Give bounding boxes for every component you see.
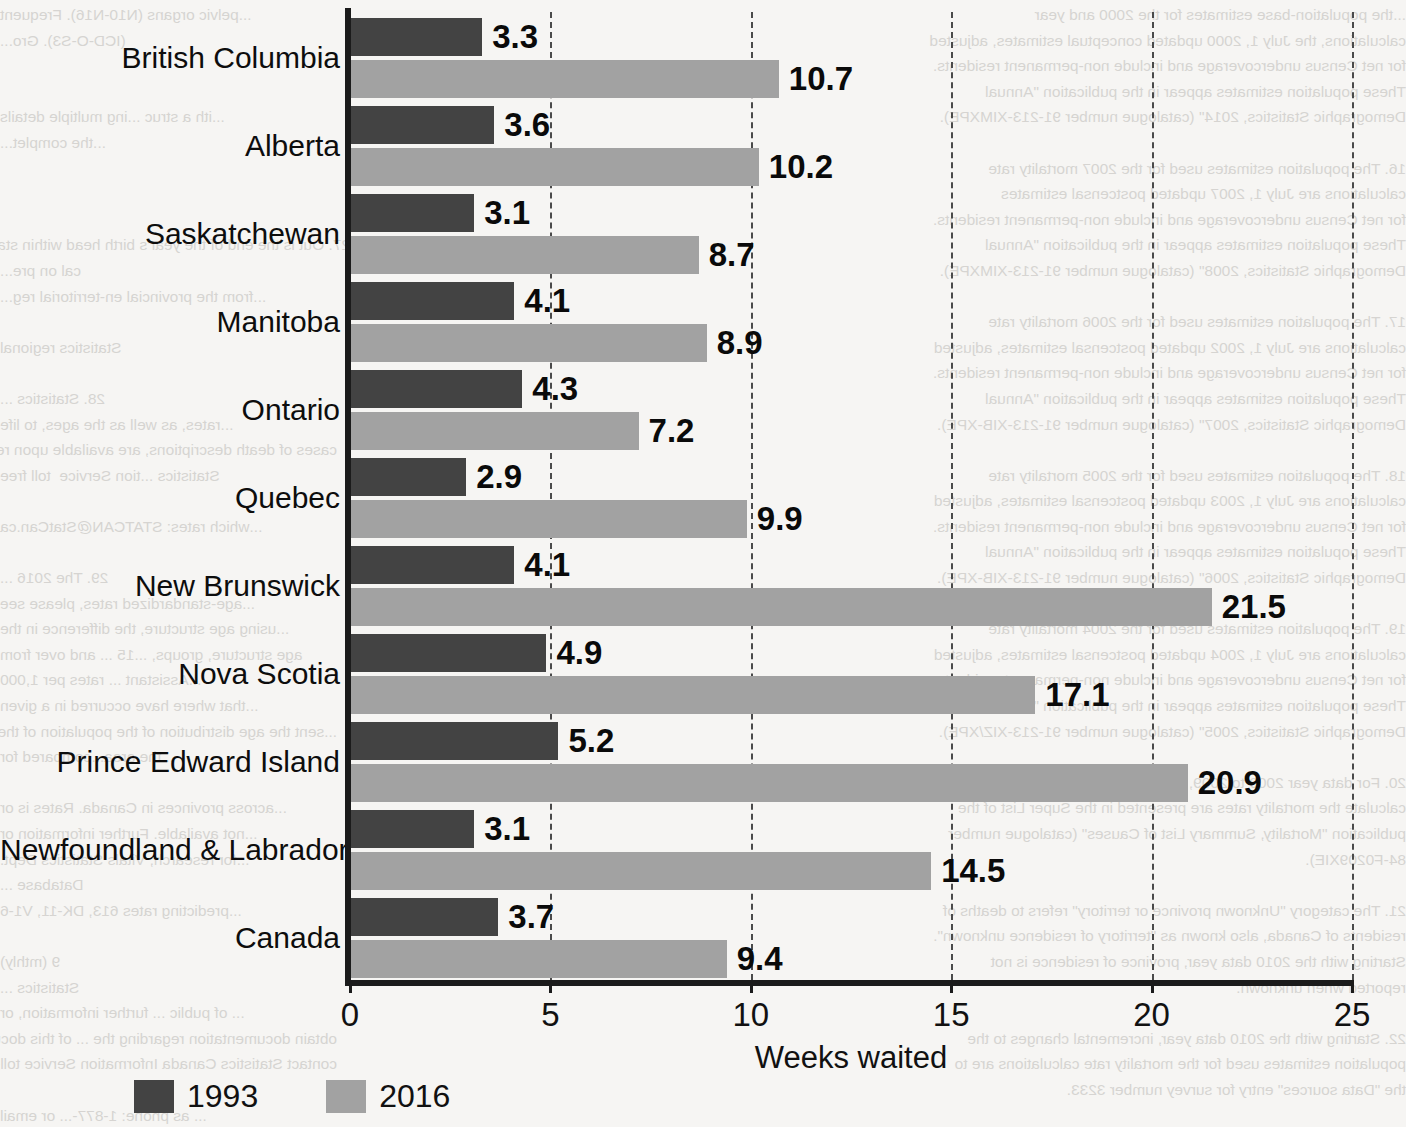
bar-2016 bbox=[350, 500, 747, 538]
bar-group: Canada3.79.4 bbox=[350, 898, 1352, 986]
bar-value-label: 8.7 bbox=[709, 236, 755, 274]
bar-1993 bbox=[350, 458, 466, 496]
bar-value-label: 14.5 bbox=[941, 852, 1005, 890]
bar-1993 bbox=[350, 634, 546, 672]
chart-legend: 1993 2016 bbox=[134, 1078, 450, 1115]
bar-1993 bbox=[350, 722, 558, 760]
bar-group: Quebec2.99.9 bbox=[350, 458, 1352, 546]
bar-1993 bbox=[350, 546, 514, 584]
legend-swatch-2016 bbox=[326, 1080, 366, 1113]
bar-2016 bbox=[350, 676, 1035, 714]
x-axis-line bbox=[345, 980, 1354, 986]
bar-2016 bbox=[350, 60, 779, 98]
x-tick-label-5: 5 bbox=[541, 996, 559, 1034]
bar-2016 bbox=[350, 324, 707, 362]
bar-group: Nova Scotia4.917.1 bbox=[350, 634, 1352, 722]
y-axis-line bbox=[345, 8, 351, 986]
bar-2016 bbox=[350, 764, 1188, 802]
bar-value-label: 3.3 bbox=[492, 18, 538, 56]
bar-2016 bbox=[350, 236, 699, 274]
bar-value-label: 4.1 bbox=[524, 546, 570, 584]
bar-value-label: 7.2 bbox=[649, 412, 695, 450]
bar-value-label: 21.5 bbox=[1222, 588, 1286, 626]
x-axis-title: Weeks waited bbox=[755, 1040, 947, 1076]
category-label: British Columbia bbox=[0, 43, 340, 73]
bar-value-label: 10.2 bbox=[769, 148, 833, 186]
bar-value-label: 5.2 bbox=[568, 722, 614, 760]
legend-item-2016: 2016 bbox=[326, 1078, 450, 1115]
category-label: Nova Scotia bbox=[0, 659, 340, 689]
category-label: Quebec bbox=[0, 483, 340, 513]
scanned-chart-page: ...pelvic organs (N10-N16). Frequent (IC… bbox=[0, 0, 1406, 1127]
bar-value-label: 9.4 bbox=[737, 940, 783, 978]
bar-value-label: 10.7 bbox=[789, 60, 853, 98]
legend-label-1993: 1993 bbox=[187, 1078, 258, 1115]
category-label: New Brunswick bbox=[0, 571, 340, 601]
gridline-25 bbox=[1352, 12, 1354, 980]
bar-value-label: 3.7 bbox=[508, 898, 554, 936]
bar-value-label: 4.9 bbox=[556, 634, 602, 672]
bar-group: Alberta3.610.2 bbox=[350, 106, 1352, 194]
bar-2016 bbox=[350, 852, 931, 890]
x-tick-label-0: 0 bbox=[341, 996, 359, 1034]
bar-group: Saskatchewan3.18.7 bbox=[350, 194, 1352, 282]
bar-value-label: 4.1 bbox=[524, 282, 570, 320]
bar-1993 bbox=[350, 194, 474, 232]
category-label: Prince Edward Island bbox=[0, 747, 340, 777]
bar-2016 bbox=[350, 940, 727, 978]
bar-group: New Brunswick4.121.5 bbox=[350, 546, 1352, 634]
bar-1993 bbox=[350, 18, 482, 56]
bar-value-label: 20.9 bbox=[1198, 764, 1262, 802]
bar-group: Ontario4.37.2 bbox=[350, 370, 1352, 458]
x-tick-20 bbox=[1151, 980, 1154, 993]
category-label: Newfoundland & Labrador bbox=[0, 835, 340, 865]
bar-1993 bbox=[350, 106, 494, 144]
category-label: Alberta bbox=[0, 131, 340, 161]
x-tick-label-15: 15 bbox=[933, 996, 970, 1034]
bar-group: Prince Edward Island5.220.9 bbox=[350, 722, 1352, 810]
x-tick-25 bbox=[1351, 980, 1354, 993]
bar-value-label: 3.1 bbox=[484, 194, 530, 232]
category-label: Manitoba bbox=[0, 307, 340, 337]
bar-group: British Columbia3.310.7 bbox=[350, 18, 1352, 106]
bar-value-label: 17.1 bbox=[1045, 676, 1109, 714]
bar-group: Newfoundland & Labrador3.114.5 bbox=[350, 810, 1352, 898]
x-tick-5 bbox=[549, 980, 552, 993]
x-tick-label-25: 25 bbox=[1334, 996, 1371, 1034]
bar-value-label: 4.3 bbox=[532, 370, 578, 408]
legend-label-2016: 2016 bbox=[379, 1078, 450, 1115]
bar-group: Manitoba4.18.9 bbox=[350, 282, 1352, 370]
bar-1993 bbox=[350, 282, 514, 320]
x-tick-0 bbox=[349, 980, 352, 993]
bar-value-label: 8.9 bbox=[717, 324, 763, 362]
x-tick-15 bbox=[950, 980, 953, 993]
plot-area: British Columbia3.310.7Alberta3.610.2Sas… bbox=[350, 12, 1352, 980]
x-tick-label-20: 20 bbox=[1133, 996, 1170, 1034]
legend-item-1993: 1993 bbox=[134, 1078, 258, 1115]
bar-2016 bbox=[350, 412, 639, 450]
bar-1993 bbox=[350, 898, 498, 936]
bar-value-label: 2.9 bbox=[476, 458, 522, 496]
category-label: Ontario bbox=[0, 395, 340, 425]
bar-2016 bbox=[350, 148, 759, 186]
bar-value-label: 3.6 bbox=[504, 106, 550, 144]
bar-1993 bbox=[350, 810, 474, 848]
x-tick-10 bbox=[750, 980, 753, 993]
category-label: Saskatchewan bbox=[0, 219, 340, 249]
grouped-bar-chart: British Columbia3.310.7Alberta3.610.2Sas… bbox=[0, 0, 1406, 1127]
bar-1993 bbox=[350, 370, 522, 408]
legend-swatch-1993 bbox=[134, 1080, 174, 1113]
category-label: Canada bbox=[0, 923, 340, 953]
bar-value-label: 9.9 bbox=[757, 500, 803, 538]
x-tick-label-10: 10 bbox=[732, 996, 769, 1034]
bar-value-label: 3.1 bbox=[484, 810, 530, 848]
bar-2016 bbox=[350, 588, 1212, 626]
